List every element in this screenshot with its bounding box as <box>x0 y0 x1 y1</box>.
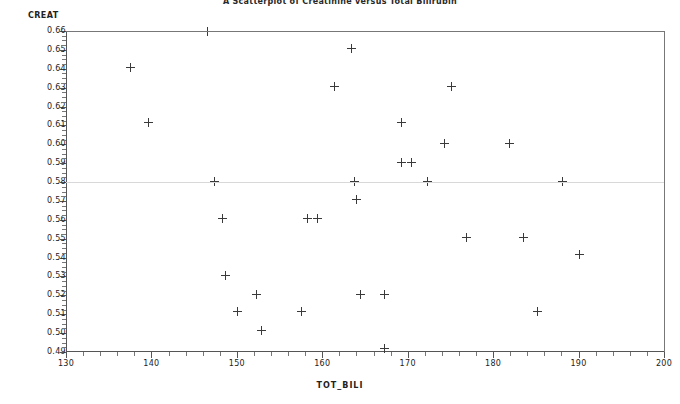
x-tick-mark <box>408 352 409 358</box>
y-tick-label: 0.57 <box>26 196 66 205</box>
y-tick-label: 0.54 <box>26 253 66 262</box>
y-tick-label: 0.58 <box>26 177 66 186</box>
y-tick-label: 0.61 <box>26 120 66 129</box>
y-tick-label: 0.60 <box>26 139 66 148</box>
data-point-marker <box>126 63 135 72</box>
data-point-marker <box>533 307 542 316</box>
y-tick-label: 0.64 <box>26 64 66 73</box>
y-tick-label: 0.66 <box>26 26 66 35</box>
x-tick-minor <box>647 352 648 356</box>
data-point-marker <box>330 82 339 91</box>
x-tick-label: 180 <box>473 359 513 368</box>
y-tick-label: 0.49 <box>26 347 66 356</box>
x-tick-minor <box>186 352 187 356</box>
x-tick-minor <box>117 352 118 356</box>
scatterplot-figure: A Scatterplot of Creatinine versus Total… <box>0 0 680 404</box>
data-point-marker <box>233 307 242 316</box>
x-tick-label: 130 <box>46 359 86 368</box>
y-tick-label: 0.56 <box>26 215 66 224</box>
y-tick-label: 0.55 <box>26 234 66 243</box>
reference-line <box>66 182 664 183</box>
x-tick-minor <box>510 352 511 356</box>
data-point-marker <box>297 307 306 316</box>
x-tick-minor <box>100 352 101 356</box>
data-point-marker <box>519 233 528 242</box>
x-tick-label: 170 <box>388 359 428 368</box>
x-tick-minor <box>613 352 614 356</box>
x-tick-minor <box>425 352 426 356</box>
y-tick-label: 0.53 <box>26 271 66 280</box>
x-tick-minor <box>391 352 392 356</box>
x-tick-minor <box>169 352 170 356</box>
x-tick-minor <box>476 352 477 356</box>
x-tick-minor <box>271 352 272 356</box>
x-tick-mark <box>237 352 238 358</box>
data-point-marker <box>407 158 416 167</box>
data-point-marker <box>380 290 389 299</box>
x-tick-minor <box>288 352 289 356</box>
data-point-marker <box>356 290 365 299</box>
plot-frame-top <box>66 31 664 32</box>
x-tick-minor <box>442 352 443 356</box>
x-tick-minor <box>203 352 204 356</box>
data-point-marker <box>397 118 406 127</box>
data-point-marker <box>313 214 322 223</box>
x-axis-label: TOT_BILI <box>0 381 680 390</box>
y-tick-label: 0.51 <box>26 309 66 318</box>
data-point-marker <box>380 344 389 353</box>
y-tick-label: 0.63 <box>26 83 66 92</box>
data-point-marker <box>397 158 406 167</box>
x-tick-minor <box>630 352 631 356</box>
x-tick-mark <box>579 352 580 358</box>
data-point-marker <box>347 44 356 53</box>
x-tick-label: 140 <box>131 359 171 368</box>
x-tick-label: 160 <box>302 359 342 368</box>
x-tick-minor <box>544 352 545 356</box>
x-tick-minor <box>134 352 135 356</box>
x-tick-minor <box>254 352 255 356</box>
x-tick-minor <box>220 352 221 356</box>
y-tick-label: 0.50 <box>26 328 66 337</box>
data-point-marker <box>440 139 449 148</box>
y-tick-label: 0.52 <box>26 290 66 299</box>
x-tick-mark <box>664 352 665 358</box>
x-tick-minor <box>374 352 375 356</box>
x-tick-label: 190 <box>559 359 599 368</box>
x-tick-minor <box>305 352 306 356</box>
y-tick-label: 0.65 <box>26 45 66 54</box>
x-tick-minor <box>83 352 84 356</box>
chart-title: A Scatterplot of Creatinine versus Total… <box>0 0 680 6</box>
plot-frame-right <box>664 31 665 352</box>
x-tick-mark <box>322 352 323 358</box>
plot-area <box>66 31 664 352</box>
x-tick-minor <box>459 352 460 356</box>
x-tick-minor <box>596 352 597 356</box>
x-tick-minor <box>339 352 340 356</box>
x-tick-mark <box>66 352 67 358</box>
x-tick-label: 150 <box>217 359 257 368</box>
data-point-marker <box>352 195 361 204</box>
x-tick-mark <box>493 352 494 358</box>
data-point-marker <box>257 326 266 335</box>
y-tick-label: 0.62 <box>26 102 66 111</box>
y-tick-label: 0.59 <box>26 158 66 167</box>
data-point-marker <box>505 139 514 148</box>
x-tick-minor <box>561 352 562 356</box>
data-point-marker <box>447 82 456 91</box>
y-axis-ticks: 0.490.500.510.520.530.540.550.560.570.58… <box>0 0 66 404</box>
data-point-marker <box>462 233 471 242</box>
x-tick-minor <box>356 352 357 356</box>
x-tick-mark <box>151 352 152 358</box>
data-point-marker <box>144 118 153 127</box>
x-tick-minor <box>527 352 528 356</box>
x-tick-label: 200 <box>644 359 680 368</box>
data-point-marker <box>303 214 312 223</box>
data-point-marker <box>221 271 230 280</box>
data-point-marker <box>252 290 261 299</box>
data-point-marker <box>218 214 227 223</box>
data-point-marker <box>575 250 584 259</box>
